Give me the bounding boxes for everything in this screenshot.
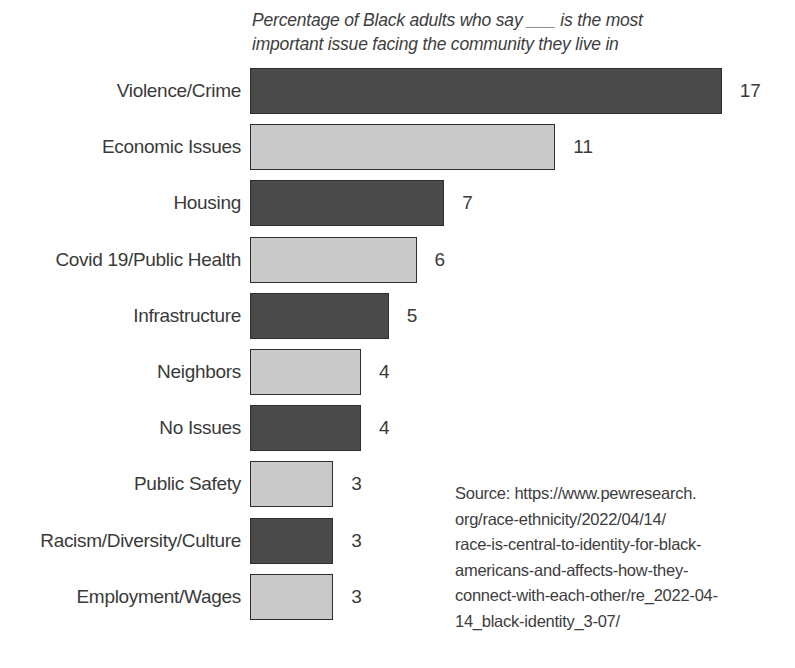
source-note-line: 14_black-identity_3-07/ bbox=[455, 609, 755, 635]
bar bbox=[250, 405, 361, 451]
source-note-line: Source: https://www.pewresearch. bbox=[455, 481, 755, 507]
bar-row: Infrastructure5 bbox=[0, 293, 795, 339]
source-note: Source: https://www.pewresearch. org/rac… bbox=[455, 481, 755, 634]
bar-category-label: No Issues bbox=[0, 405, 241, 451]
bar bbox=[250, 124, 555, 170]
bar-value-label: 11 bbox=[573, 124, 593, 170]
bar bbox=[250, 237, 417, 283]
chart-subtitle-line: important issue facing the community the… bbox=[252, 32, 722, 56]
bar bbox=[250, 293, 389, 339]
bar bbox=[250, 574, 333, 620]
bar-category-label: Infrastructure bbox=[0, 293, 241, 339]
bar bbox=[250, 180, 444, 226]
bar-category-label: Racism/Diversity/Culture bbox=[0, 518, 241, 564]
bar-category-label: Housing bbox=[0, 180, 241, 226]
chart-subtitle: Percentage of Black adults who say ___ i… bbox=[252, 8, 722, 56]
bar-category-label: Public Safety bbox=[0, 461, 241, 507]
bar bbox=[250, 461, 333, 507]
bar-value-label: 7 bbox=[462, 180, 473, 226]
chart-subtitle-line: Percentage of Black adults who say ___ i… bbox=[252, 8, 722, 32]
bar-row: Neighbors4 bbox=[0, 349, 795, 395]
bar-value-label: 4 bbox=[379, 349, 390, 395]
bar bbox=[250, 68, 722, 114]
bar-category-label: Covid 19/Public Health bbox=[0, 237, 241, 283]
bar-value-label: 3 bbox=[351, 461, 362, 507]
bar bbox=[250, 349, 361, 395]
bar-value-label: 5 bbox=[407, 293, 418, 339]
source-note-line: org/race-ethnicity/2022/04/14/ bbox=[455, 507, 755, 533]
bar-category-label: Employment/Wages bbox=[0, 574, 241, 620]
bar bbox=[250, 518, 333, 564]
bar-value-label: 4 bbox=[379, 405, 390, 451]
bar-category-label: Economic Issues bbox=[0, 124, 241, 170]
source-note-line: americans-and-affects-how-they- bbox=[455, 558, 755, 584]
bar-value-label: 6 bbox=[435, 237, 446, 283]
source-note-line: connect-with-each-other/re_2022-04- bbox=[455, 583, 755, 609]
bar-row: Violence/Crime17 bbox=[0, 68, 795, 114]
bar-category-label: Violence/Crime bbox=[0, 68, 241, 114]
bar-value-label: 17 bbox=[740, 68, 761, 114]
bar-value-label: 3 bbox=[351, 518, 362, 564]
source-note-line: race-is-central-to-identity-for-black- bbox=[455, 532, 755, 558]
bar-row: Economic Issues11 bbox=[0, 124, 795, 170]
bar-row: Housing7 bbox=[0, 180, 795, 226]
bar-row: Covid 19/Public Health6 bbox=[0, 237, 795, 283]
bar-category-label: Neighbors bbox=[0, 349, 241, 395]
bar-value-label: 3 bbox=[351, 574, 362, 620]
bar-row: No Issues4 bbox=[0, 405, 795, 451]
